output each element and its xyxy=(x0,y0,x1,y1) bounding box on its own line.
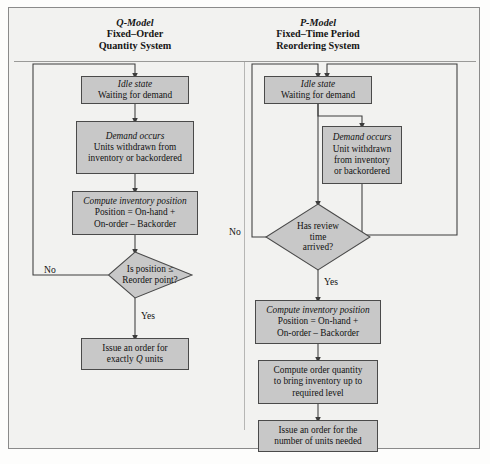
q-model-title-line3: Quantity System xyxy=(75,40,195,51)
p-compute-position-box: Compute inventory position Position = On… xyxy=(255,300,381,344)
q-issue-order-line-1: Issue an order for xyxy=(102,343,167,354)
p-model-title-model: P-Model xyxy=(258,17,378,28)
q-decision-line-2: Reorder point? xyxy=(122,275,178,286)
p-yes-edge-label: Yes xyxy=(324,276,338,287)
q-issue-order-line-2: exactly Q units xyxy=(107,354,163,365)
p-order-quantity-line-3: required level xyxy=(292,388,343,399)
q-model-title-model: Q-Model xyxy=(75,17,195,28)
q-model-panel-title: Q-Model Fixed–Order Quantity System xyxy=(75,17,195,51)
p-order-quantity-line-2: to bring inventory up to xyxy=(274,376,362,387)
p-order-quantity-line-1: Compute order quantity xyxy=(274,365,363,376)
p-compute-position-line-1: Position = On-hand + xyxy=(278,316,358,327)
q-compute-position-line-1: Position = On-hand + xyxy=(95,207,175,218)
p-order-quantity-box: Compute order quantity to bring inventor… xyxy=(258,360,378,404)
q-model-title-line2: Fixed–Order xyxy=(75,28,195,39)
q-compute-position-emphasis: Compute inventory position xyxy=(83,196,186,207)
figure-page: Q-Model Fixed–Order Quantity System P-Mo… xyxy=(0,0,490,464)
p-demand-occurs-line-3: or backordered xyxy=(334,166,390,177)
q-issue-order-box: Issue an order for exactly Q units xyxy=(81,338,189,370)
p-idle-to-demand-edge xyxy=(318,104,362,126)
p-issue-order-line-2: number of units needed xyxy=(274,436,362,447)
p-demand-occurs-emphasis: Demand occurs xyxy=(333,132,392,143)
q-demand-occurs-box: Demand occurs Units withdrawn from inven… xyxy=(76,121,194,174)
q-compute-position-line-2: On-order – Backorder xyxy=(94,219,176,230)
p-decision-line-2: time xyxy=(310,232,327,243)
p-model-title-line2: Fixed–Time Period xyxy=(258,28,378,39)
p-demand-occurs-line-2: from inventory xyxy=(334,155,390,166)
flowchart-canvas: Q-Model Fixed–Order Quantity System P-Mo… xyxy=(0,0,490,464)
p-compute-position-emphasis: Compute inventory position xyxy=(266,305,369,316)
q-idle-state-box: Idle state Waiting for demand xyxy=(81,76,189,104)
p-issue-order-line-1: Issue an order for the xyxy=(279,425,358,436)
q-decision-line-1: Is position ≤ xyxy=(127,264,173,275)
p-decision-line-1: Has review xyxy=(297,221,339,232)
q-yes-edge-label: Yes xyxy=(141,310,155,321)
p-no-edge-label: No xyxy=(229,226,241,237)
q-idle-state-emphasis: Idle state xyxy=(118,79,152,90)
p-idle-state-box: Idle state Waiting for demand xyxy=(264,76,372,104)
q-compute-position-box: Compute inventory position Position = On… xyxy=(72,191,198,235)
p-decision-line-3: arrived? xyxy=(303,242,333,253)
p-demand-occurs-line-1: Unit withdrawn xyxy=(333,144,392,155)
q-idle-state-line-1: Waiting for demand xyxy=(98,90,172,101)
q-demand-occurs-emphasis: Demand occurs xyxy=(106,131,165,142)
p-model-panel-title: P-Model Fixed–Time Period Reordering Sys… xyxy=(258,17,378,51)
q-decision-label-wrap: Is position ≤ Reorder point? xyxy=(108,252,192,298)
q-demand-occurs-line-2: inventory or backordered xyxy=(88,153,182,164)
q-no-edge-label: No xyxy=(44,264,56,275)
p-demand-occurs-box: Demand occurs Unit withdrawn from invent… xyxy=(322,126,402,184)
q-demand-occurs-line-1: Units withdrawn from xyxy=(94,142,177,153)
p-idle-state-emphasis: Idle state xyxy=(301,79,335,90)
p-issue-order-box: Issue an order for the number of units n… xyxy=(258,420,378,452)
p-compute-position-line-2: On-order – Backorder xyxy=(277,328,359,339)
p-model-title-line3: Reordering System xyxy=(258,40,378,51)
p-decision-label-wrap: Has review time arrived? xyxy=(276,206,360,268)
p-idle-state-line-1: Waiting for demand xyxy=(281,90,355,101)
